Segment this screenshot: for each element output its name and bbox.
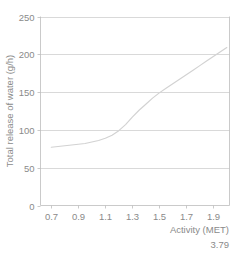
x-tick-label-0.9: 0.9: [72, 211, 85, 222]
y-axis-title: Total release of water (g/h): [4, 55, 15, 167]
x-tick-label-1.3: 1.3: [126, 211, 139, 222]
y-tick-label-150: 150: [19, 87, 35, 98]
x-tick-label-1.9: 1.9: [207, 211, 220, 222]
y-tick-label-0: 0: [29, 201, 34, 212]
x-axis-title: Activity (MET): [170, 224, 229, 235]
y-tick-label-100: 100: [19, 125, 35, 136]
chart-background: [0, 0, 241, 256]
chart-figure: 050100150200250 0.70.91.11.31.51.71.9 To…: [0, 0, 241, 256]
y-tick-label-50: 50: [24, 163, 35, 174]
x-tick-label-1.7: 1.7: [180, 211, 193, 222]
x-tick-label-1.5: 1.5: [153, 211, 166, 222]
line-chart: 050100150200250 0.70.91.11.31.51.71.9 To…: [0, 0, 241, 256]
x-tick-label-0.7: 0.7: [45, 211, 58, 222]
x-tick-label-1.1: 1.1: [99, 211, 112, 222]
y-tick-label-250: 250: [19, 12, 35, 23]
corner-value-note: 3.79: [211, 239, 230, 250]
y-tick-label-200: 200: [19, 49, 35, 60]
